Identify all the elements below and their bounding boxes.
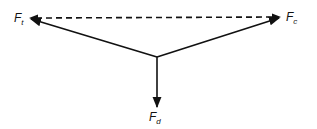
dashed-resultant-line <box>36 17 274 18</box>
vector-ft <box>31 19 157 57</box>
label-ft: Ft <box>14 11 24 27</box>
label-fc: Fc <box>286 10 297 26</box>
force-diagram: Ft Fc Fd <box>0 0 317 129</box>
label-fd: Fd <box>149 110 161 126</box>
vector-fc <box>157 18 279 57</box>
